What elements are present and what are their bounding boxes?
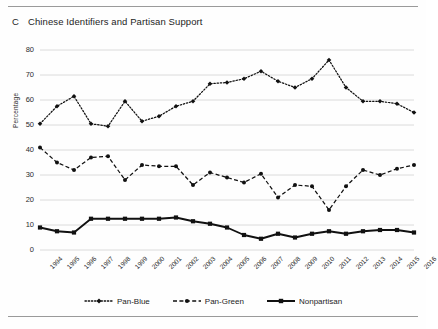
legend-item-pan-green[interactable]: Pan-Green <box>172 296 244 306</box>
data-point-marker <box>259 237 263 241</box>
legend-swatch-pan-green <box>172 296 202 306</box>
data-point-marker <box>55 161 59 165</box>
y-axis-tick-label: 20 <box>16 195 34 204</box>
data-point-marker <box>225 225 229 229</box>
data-point-marker <box>174 164 178 168</box>
data-point-marker <box>72 168 76 172</box>
legend-swatch-pan-blue <box>84 296 114 306</box>
chart-legend: Pan-BluePan-GreenNonpartisan <box>0 296 426 306</box>
data-point-marker <box>310 232 314 236</box>
data-point-marker <box>395 167 399 171</box>
legend-label: Pan-Green <box>205 297 244 306</box>
data-point-marker <box>123 217 127 221</box>
data-point-marker <box>293 183 297 187</box>
y-axis-tick-label: 80 <box>16 45 34 54</box>
data-point-marker <box>72 230 76 234</box>
data-point-marker <box>259 172 263 176</box>
y-axis-tick-label: 0 <box>16 245 34 254</box>
legend-label: Pan-Blue <box>117 297 150 306</box>
data-point-marker <box>310 184 314 188</box>
data-point-marker <box>242 233 246 237</box>
data-point-marker <box>191 183 195 187</box>
data-point-marker <box>276 232 280 236</box>
data-point-marker <box>395 228 399 232</box>
data-point-marker <box>38 225 42 229</box>
data-point-marker <box>140 163 144 167</box>
data-point-marker <box>344 232 348 236</box>
data-point-marker <box>276 196 280 200</box>
data-point-marker <box>378 228 382 232</box>
data-point-marker <box>276 79 281 84</box>
data-point-marker <box>208 222 212 226</box>
data-point-marker <box>225 80 230 85</box>
data-point-marker <box>412 110 417 115</box>
y-axis-tick-label: 50 <box>16 120 34 129</box>
data-point-marker <box>140 217 144 221</box>
data-point-marker <box>412 163 416 167</box>
data-point-marker <box>327 229 331 233</box>
series-line-pan-blue <box>40 60 414 126</box>
data-point-marker <box>293 85 298 90</box>
y-axis-tick-label: 70 <box>16 70 34 79</box>
data-point-marker <box>106 217 110 221</box>
data-point-marker <box>361 168 365 172</box>
y-axis-tick-label: 10 <box>16 220 34 229</box>
data-point-marker <box>157 164 161 168</box>
legend-swatch-nonpartisan <box>266 296 296 306</box>
data-point-marker <box>395 101 400 106</box>
data-point-marker <box>412 230 416 234</box>
data-point-marker <box>361 229 365 233</box>
y-axis-tick-label: 30 <box>16 170 34 179</box>
data-point-marker <box>38 146 42 150</box>
y-axis-tick-label: 40 <box>16 145 34 154</box>
data-point-marker <box>89 217 93 221</box>
data-point-marker <box>174 215 178 219</box>
data-point-marker <box>89 156 93 160</box>
data-point-marker <box>327 208 331 212</box>
data-point-marker <box>225 176 229 180</box>
data-point-marker <box>191 219 195 223</box>
data-point-marker <box>293 235 297 239</box>
data-point-marker <box>55 229 59 233</box>
legend-item-pan-blue[interactable]: Pan-Blue <box>84 296 150 306</box>
y-axis-tick-label: 60 <box>16 95 34 104</box>
data-point-marker <box>242 76 247 81</box>
data-point-marker <box>242 181 246 185</box>
data-point-marker <box>344 184 348 188</box>
data-point-marker <box>208 171 212 175</box>
data-point-marker <box>123 178 127 182</box>
data-point-marker <box>106 154 110 158</box>
legend-item-nonpartisan[interactable]: Nonpartisan <box>266 296 342 306</box>
data-point-marker <box>157 217 161 221</box>
data-point-marker <box>378 173 382 177</box>
legend-label: Nonpartisan <box>299 297 342 306</box>
